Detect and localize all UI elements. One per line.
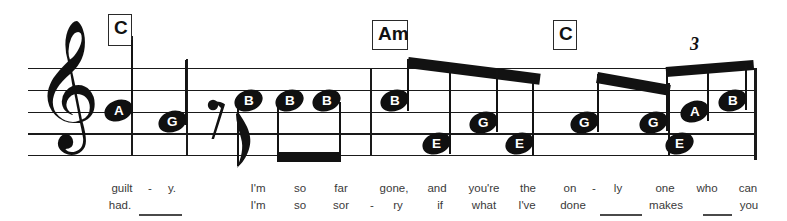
note-label: B bbox=[390, 94, 400, 108]
note-label: A bbox=[114, 104, 124, 118]
note-label: G bbox=[579, 116, 590, 130]
lyric-syllable-verse1: who bbox=[696, 182, 717, 194]
chord-symbol-c-2[interactable]: C bbox=[553, 20, 577, 50]
lyric-syllable-verse1: you're bbox=[469, 182, 500, 194]
note-label: A bbox=[690, 105, 700, 119]
note-label: B bbox=[244, 94, 254, 108]
eighth-rest-icon bbox=[205, 96, 229, 144]
lyric-syllable-verse1: far bbox=[334, 182, 347, 194]
lyric-syllable-verse2: what bbox=[472, 199, 496, 211]
lyric-syllable-verse1: - bbox=[148, 182, 152, 194]
lyric-syllable-verse1: guilt bbox=[111, 182, 132, 194]
staff-line-5 bbox=[28, 155, 756, 156]
lyric-syllable-verse1: ly bbox=[614, 182, 622, 194]
lyric-syllable-verse2: I've bbox=[518, 199, 536, 211]
lyric-syllable-verse1: gone, bbox=[380, 182, 409, 194]
staff-line-1 bbox=[28, 68, 756, 69]
sheet-music-canvas: 𝄞 C Am C A G B B B bbox=[0, 0, 787, 221]
tuplet-number-3: 3 bbox=[690, 34, 699, 55]
lyric-syllable-verse1: can bbox=[739, 182, 758, 194]
chord-symbol-c-1[interactable]: C bbox=[108, 14, 132, 46]
beam-group-3 bbox=[407, 57, 540, 85]
lyric-syllable-verse2: ry bbox=[393, 199, 403, 211]
note-label: E bbox=[675, 137, 684, 151]
measure-barline-2 bbox=[370, 68, 372, 156]
lyric-syllable-verse2: so bbox=[294, 199, 306, 211]
note-label: G bbox=[648, 116, 659, 130]
note-label: E bbox=[432, 137, 441, 151]
lyric-syllable-verse2: if bbox=[437, 199, 443, 211]
beam-group-4 bbox=[596, 72, 671, 96]
note-label: B bbox=[322, 94, 332, 108]
lyric-syllable-verse2: done bbox=[560, 199, 586, 211]
lyric-syllable-verse1: one bbox=[655, 182, 674, 194]
lyric-syllable-verse2: makes bbox=[649, 199, 683, 211]
lyric-syllable-verse1: and bbox=[427, 182, 446, 194]
note-label: G bbox=[478, 116, 489, 130]
beam-group-5-triplet bbox=[666, 60, 755, 77]
lyric-syllable-verse2: sor bbox=[333, 199, 349, 211]
lyric-syllable-verse2: you bbox=[740, 199, 759, 211]
note-label: G bbox=[167, 115, 178, 129]
lyric-syllable-verse1: so bbox=[294, 182, 306, 194]
note-stem-b3 bbox=[339, 102, 341, 155]
lyric-syllable-verse1: - bbox=[592, 182, 596, 194]
chord-symbol-am[interactable]: Am bbox=[372, 20, 408, 50]
note-label: B bbox=[285, 94, 295, 108]
end-barline bbox=[754, 68, 757, 160]
lyric-extender-line bbox=[600, 214, 642, 216]
lyric-syllable-verse1: y. bbox=[168, 182, 176, 194]
lyric-syllable-verse2: - bbox=[370, 199, 374, 211]
eighth-flag-icon-b1 bbox=[232, 108, 258, 174]
lyric-extender-line bbox=[703, 214, 732, 216]
note-label: E bbox=[515, 137, 524, 151]
lyric-syllable-verse2: had. bbox=[109, 199, 131, 211]
lyric-syllable-verse1: I'm bbox=[251, 182, 266, 194]
lyric-syllable-verse1: the bbox=[520, 182, 536, 194]
lyric-syllable-verse1: on bbox=[564, 182, 577, 194]
treble-clef-icon: 𝄞 bbox=[34, 27, 100, 139]
note-label: B bbox=[728, 94, 738, 108]
lyric-syllable-verse2: I'm bbox=[251, 199, 266, 211]
beam-group-2 bbox=[277, 152, 341, 162]
lyric-extender-line bbox=[139, 214, 182, 216]
